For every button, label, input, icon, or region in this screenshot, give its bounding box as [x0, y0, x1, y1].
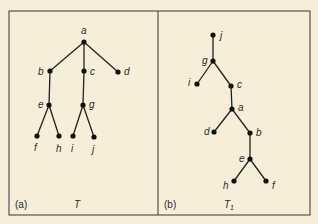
node-a — [229, 106, 234, 111]
tree-figure: a b c d e g f h i j (a) T j g i — [0, 0, 318, 224]
node-j — [210, 32, 215, 37]
node-c — [228, 83, 233, 88]
label-d: d — [204, 126, 210, 137]
label-j: j — [218, 30, 223, 41]
node-j — [91, 134, 96, 139]
node-i — [70, 133, 75, 138]
node-b — [47, 68, 52, 73]
node-d — [211, 129, 216, 134]
node-g — [80, 102, 85, 107]
node-a — [81, 39, 86, 44]
panel-a-nodes — [34, 39, 120, 139]
panel-a-tree — [37, 42, 118, 137]
label-a: a — [238, 102, 244, 113]
figure-frame — [9, 11, 310, 215]
label-j: j — [90, 144, 95, 155]
label-g: g — [89, 99, 95, 110]
label-d: d — [124, 66, 130, 77]
caption-b-label: (b) — [164, 199, 176, 210]
node-f — [263, 178, 268, 183]
node-h — [56, 133, 61, 138]
label-i: i — [71, 143, 74, 154]
label-i: i — [188, 77, 191, 88]
caption-a-tree-name: T — [74, 199, 81, 210]
node-f — [34, 133, 39, 138]
label-f: f — [34, 142, 38, 153]
label-b: b — [256, 127, 262, 138]
label-e: e — [239, 153, 245, 164]
label-c: c — [90, 66, 95, 77]
node-g — [210, 58, 215, 63]
node-i — [194, 81, 199, 86]
node-e — [46, 102, 51, 107]
label-b: b — [38, 66, 44, 77]
label-g: g — [202, 55, 208, 66]
node-e — [247, 156, 252, 161]
label-f: f — [272, 180, 276, 191]
caption-a-label: (a) — [15, 199, 27, 210]
label-e: e — [38, 99, 44, 110]
label-h: h — [223, 180, 229, 191]
node-d — [115, 69, 120, 74]
node-h — [231, 178, 236, 183]
label-h: h — [56, 143, 62, 154]
caption-b-tree-name: T1 — [224, 199, 234, 211]
node-c — [81, 68, 86, 73]
label-a: a — [81, 25, 87, 36]
node-b — [247, 130, 252, 135]
label-c: c — [237, 79, 242, 90]
